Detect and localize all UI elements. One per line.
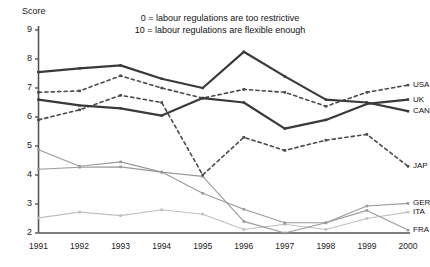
series-marker-can: [243, 51, 245, 53]
series-marker-can: [119, 64, 121, 66]
series-marker-can: [407, 110, 409, 112]
series-marker-ger: [37, 168, 40, 171]
series-marker-jap: [160, 101, 163, 104]
series-marker-fra: [407, 229, 410, 232]
series-marker-uk: [202, 97, 204, 99]
series-marker-can: [161, 78, 163, 80]
series-marker-jap: [325, 139, 328, 142]
series-marker-fra: [284, 232, 287, 235]
series-marker-uk: [37, 98, 39, 100]
series-marker-uk: [243, 101, 245, 103]
series-marker-can: [202, 87, 204, 89]
series-marker-jap: [284, 149, 287, 152]
series-marker-usa: [325, 105, 328, 108]
series-marker-uk: [284, 127, 286, 129]
series-marker-usa: [284, 91, 287, 94]
series-marker-fra: [325, 222, 328, 225]
series-marker-fra: [37, 149, 40, 152]
series-marker-can: [284, 75, 286, 77]
series-marker-uk: [325, 119, 327, 121]
series-marker-jap: [243, 136, 246, 139]
series-marker-jap: [366, 133, 369, 136]
series-marker-usa: [407, 84, 410, 87]
series-marker-ita: [407, 211, 410, 214]
series-marker-ita: [119, 214, 122, 217]
series-marker-ita: [78, 211, 81, 214]
series-marker-uk: [161, 114, 163, 116]
series-marker-usa: [243, 88, 246, 91]
series-marker-fra: [78, 165, 81, 168]
series-marker-ger: [366, 205, 369, 208]
series-marker-usa: [366, 91, 369, 94]
series-marker-jap: [78, 109, 81, 112]
series-marker-ger: [284, 222, 287, 225]
series-marker-fra: [243, 220, 246, 223]
series-marker-ita: [243, 228, 246, 231]
series-marker-ger: [243, 208, 246, 211]
series-line-ita: [39, 210, 409, 230]
series-marker-jap: [201, 174, 204, 177]
series-marker-can: [37, 71, 39, 73]
series-marker-ita: [160, 209, 163, 212]
series-marker-jap: [407, 165, 410, 168]
series-marker-ita: [325, 228, 328, 231]
series-marker-ger: [201, 192, 204, 195]
series-marker-fra: [119, 161, 122, 164]
series-marker-ita: [37, 217, 40, 220]
series-marker-uk: [78, 104, 80, 106]
series-marker-jap: [119, 94, 122, 97]
series-marker-ita: [366, 217, 369, 220]
series-marker-uk: [119, 107, 121, 109]
series-marker-usa: [37, 91, 40, 94]
series-marker-uk: [366, 103, 368, 105]
series-marker-jap: [37, 119, 40, 122]
series-marker-fra: [366, 209, 369, 212]
series-line-can: [39, 52, 409, 111]
series-marker-ger: [407, 202, 410, 205]
series-marker-can: [78, 67, 80, 69]
series-line-fra: [39, 150, 409, 233]
series-marker-usa: [78, 90, 81, 93]
series-marker-can: [325, 98, 327, 100]
series-marker-usa: [160, 87, 163, 90]
series-marker-ita: [201, 213, 204, 216]
series-marker-usa: [119, 75, 122, 78]
series-marker-ger: [119, 166, 122, 169]
series-marker-fra: [160, 171, 163, 174]
series-marker-uk: [407, 98, 409, 100]
series-line-uk: [39, 98, 409, 129]
